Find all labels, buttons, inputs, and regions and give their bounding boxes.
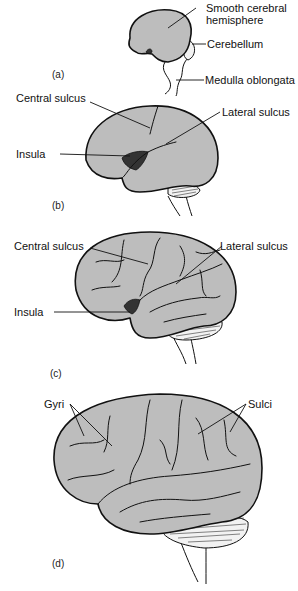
panel-label-a: (a) [52,69,64,80]
label-line-1: Smooth cerebral [206,2,287,14]
panel-d-brain [54,394,262,584]
label-insula-c: Insula [14,306,43,318]
panel-label-c: (c) [50,368,62,379]
label-lateral-sulcus-c: Lateral sulcus [220,240,288,252]
label-insula-b: Insula [16,148,45,160]
panel-label-d: (d) [52,558,64,569]
label-central-sulcus-c: Central sulcus [14,240,84,252]
label-sulci: Sulci [248,398,272,410]
panel-b-brain [60,102,220,216]
label-gyri: Gyri [44,398,64,410]
label-line-2: hemisphere [206,14,287,26]
panel-label-b: (b) [52,200,64,211]
label-smooth-cerebral-hemisphere: Smooth cerebral hemisphere [206,2,287,26]
label-lateral-sulcus-b: Lateral sulcus [222,106,290,118]
panel-a-brain [129,8,206,96]
label-medulla-oblongata: Medulla oblongata [205,74,295,86]
brain-development-diagram [0,0,298,591]
label-central-sulcus-b: Central sulcus [16,92,86,104]
label-cerebellum: Cerebellum [207,38,263,50]
